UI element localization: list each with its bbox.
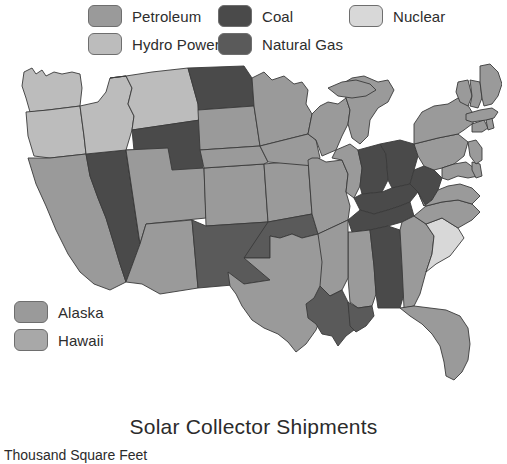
legend-label-alaska: Alaska	[58, 305, 104, 320]
legend-label-petroleum: Petroleum	[132, 9, 201, 24]
legend-item-hawaii[interactable]: Hawaii	[14, 329, 104, 351]
legend-swatch-nuclear	[349, 5, 383, 27]
legend-item-nuclear[interactable]: Nuclear	[349, 5, 445, 27]
state-ND[interactable]	[188, 66, 254, 110]
state-ID[interactable]	[80, 76, 134, 154]
chart-title: Solar Collector Shipments	[0, 415, 507, 439]
state-NJ[interactable]	[468, 140, 482, 164]
legend-item-alaska[interactable]: Alaska	[14, 301, 104, 323]
legend-swatch-coal	[218, 5, 252, 27]
state-OR[interactable]	[26, 106, 86, 158]
legend-item-hydro-power[interactable]: Hydro Power	[88, 33, 220, 55]
legend-label-nuclear: Nuclear	[393, 9, 445, 24]
legend-label-hawaii: Hawaii	[58, 333, 104, 348]
legend-swatch-petroleum	[88, 5, 122, 27]
solar-collector-shipments-map-figure: Petroleum Hydro Power Coal Natural Gas N…	[0, 0, 507, 464]
legend-item-natural-gas[interactable]: Natural Gas	[218, 33, 343, 55]
legend-swatch-alaska	[14, 301, 48, 323]
state-WA[interactable]	[22, 68, 82, 112]
state-NE[interactable]	[200, 146, 268, 168]
legend-label-hydro-power: Hydro Power	[132, 37, 220, 52]
state-SD[interactable]	[198, 106, 260, 150]
legend-item-petroleum[interactable]: Petroleum	[88, 5, 201, 27]
state-CO[interactable]	[204, 164, 268, 226]
state-IN[interactable]	[358, 144, 388, 194]
units-label: Thousand Square Feet	[4, 447, 147, 463]
state-ME[interactable]	[480, 64, 502, 106]
legend-swatch-natural-gas	[218, 33, 252, 55]
legend-swatch-hydro-power	[88, 33, 122, 55]
legend-swatch-hawaii	[14, 329, 48, 351]
state-FL[interactable]	[400, 306, 470, 380]
legend-label-coal: Coal	[262, 9, 293, 24]
legend-item-coal[interactable]: Coal	[218, 5, 293, 27]
state-KS[interactable]	[264, 160, 312, 222]
legend: Petroleum Hydro Power Coal Natural Gas N…	[0, 0, 507, 60]
legend-label-natural-gas: Natural Gas	[262, 37, 343, 52]
